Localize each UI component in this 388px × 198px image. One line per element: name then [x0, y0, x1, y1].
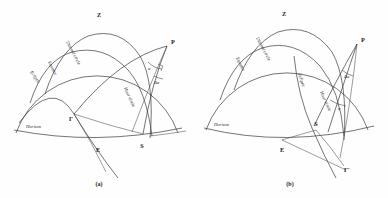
east-to-star-line-b	[282, 130, 316, 140]
hour-circle-label-a: Hour circle	[123, 85, 137, 107]
horizon-curve-b	[204, 126, 374, 138]
pole-label-a: P	[171, 38, 175, 45]
diurnal-circle-curve-b	[234, 30, 345, 141]
alpha-label-b: α	[338, 106, 341, 111]
hour-circle-curve-a	[143, 46, 167, 134]
hour-circle-curve-b	[328, 44, 357, 132]
celestial-sphere-figure: Z P E S Γ Horizon Ecliptic Equator Diurn…	[0, 0, 388, 198]
horizon-label-a: Horizon	[25, 124, 42, 129]
sphere-outline-b	[206, 73, 368, 130]
east-label-a: E	[96, 146, 100, 153]
pole-to-gamma-prime-arc-b	[340, 44, 357, 158]
alpha-label-a: α	[148, 66, 151, 71]
vernal-equinox-prime-label-b: Γ′	[344, 166, 350, 173]
diurnal-circle-curve-a	[45, 34, 151, 139]
vernal-equinox-label-a: Γ	[69, 115, 73, 122]
delta-alpha-label-a: Δα	[153, 80, 160, 85]
ecliptic-label-b: Ecliptic	[297, 72, 306, 88]
horizon-curve-a	[14, 128, 182, 138]
ecliptic-label-a: Ecliptic	[29, 69, 42, 84]
equator-label-b: Equator	[235, 55, 247, 72]
pole-label-b: P	[361, 36, 365, 43]
zenith-label-a: Z	[97, 11, 101, 18]
pole-to-star-arc-b	[314, 44, 357, 126]
panel-b: Z P E S Γ′ Horizon Equator Diurnal circl…	[194, 0, 388, 198]
star-label-a: S	[140, 142, 144, 149]
delta-alpha-label-b: Δα	[343, 74, 350, 79]
zenith-label-b: Z	[282, 10, 286, 17]
horizon-label-b: Horizon	[213, 122, 230, 127]
diurnal-circle-label-b: Diurnal circle	[255, 35, 272, 61]
caption-a: (a)	[96, 181, 103, 188]
panel-a: Z P E S Γ Horizon Ecliptic Equator Diurn…	[0, 0, 194, 198]
horizon-extension-a	[150, 131, 186, 136]
star-label-b: S	[314, 120, 318, 127]
diurnal-circle-label-a: Diurnal circle	[65, 39, 82, 65]
east-label-b: E	[280, 146, 284, 153]
caption-b: (b)	[286, 181, 293, 188]
